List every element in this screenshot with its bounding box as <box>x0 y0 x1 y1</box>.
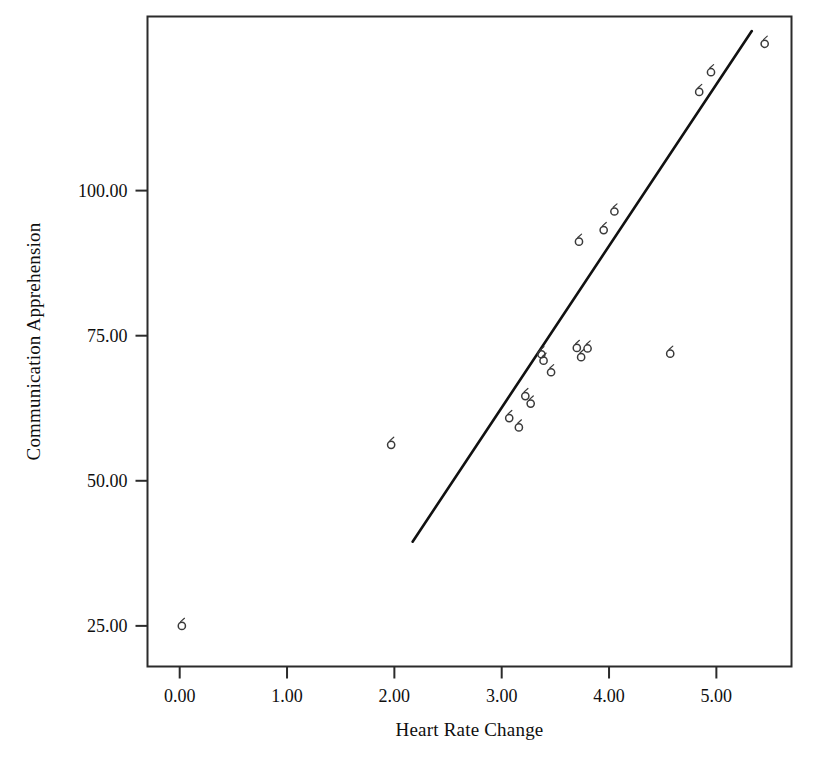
data-point-tick <box>698 84 702 87</box>
data-point-tick <box>669 346 673 349</box>
data-point-marker <box>388 441 395 448</box>
x-tick-label: 0.00 <box>164 686 196 707</box>
fit-line <box>413 31 752 542</box>
data-point-marker <box>707 69 714 76</box>
data-point-tick <box>576 340 580 343</box>
data-point <box>667 346 674 357</box>
data-point-tick <box>602 222 606 225</box>
y-tick-label: 100.00 <box>0 180 128 201</box>
x-axis-title: Heart Rate Change <box>148 719 792 741</box>
x-tick-label: 4.00 <box>593 686 625 707</box>
data-point-marker <box>547 369 554 376</box>
data-point-marker <box>696 88 703 95</box>
data-point-marker <box>600 226 607 233</box>
y-axis-title: Communication Apprehension <box>23 223 45 461</box>
data-point <box>584 341 591 352</box>
data-point-marker <box>578 354 585 361</box>
x-tick-label: 2.00 <box>379 686 411 707</box>
data-point-tick <box>518 420 522 423</box>
data-point <box>522 388 529 399</box>
data-point-tick <box>550 365 554 368</box>
data-point-marker <box>573 344 580 351</box>
data-point-marker <box>584 345 591 352</box>
x-tick-label: 5.00 <box>701 686 733 707</box>
data-point <box>506 411 513 422</box>
data-point-tick <box>578 234 582 237</box>
data-point-tick <box>508 411 512 414</box>
data-point-marker <box>667 350 674 357</box>
x-tick-label: 1.00 <box>271 686 303 707</box>
data-point-marker <box>527 400 534 407</box>
x-tick-label: 3.00 <box>486 686 518 707</box>
data-point <box>761 36 768 47</box>
data-point-marker <box>522 392 529 399</box>
data-point-marker <box>506 415 513 422</box>
data-point-marker <box>611 208 618 215</box>
data-point <box>178 618 185 629</box>
data-point-marker <box>575 238 582 245</box>
y-tick-label: 25.00 <box>0 615 128 636</box>
data-point <box>696 84 703 95</box>
data-point-tick <box>586 341 590 344</box>
data-point <box>573 340 580 351</box>
data-point <box>611 204 618 215</box>
plot-canvas <box>0 0 816 771</box>
data-point <box>540 353 547 364</box>
data-point-marker <box>178 622 185 629</box>
y-tick-label: 75.00 <box>0 325 128 346</box>
data-point <box>600 222 607 233</box>
data-point-tick <box>710 65 714 68</box>
data-point-tick <box>529 396 533 399</box>
data-point-tick <box>390 437 394 440</box>
data-point-tick <box>524 388 528 391</box>
data-point <box>547 365 554 376</box>
y-tick-label: 50.00 <box>0 470 128 491</box>
data-point-marker <box>515 424 522 431</box>
x-axis-ticks <box>180 667 717 679</box>
plot-frame <box>148 17 792 667</box>
data-point-marker <box>540 357 547 364</box>
data-point-tick <box>763 36 767 39</box>
scatter-plot-figure: 25.0050.0075.00100.00 0.001.002.003.004.… <box>0 0 816 771</box>
data-point <box>538 347 545 358</box>
data-point <box>707 65 714 76</box>
data-point-tick <box>613 204 617 207</box>
regression-line <box>413 31 752 542</box>
data-point-marker <box>761 40 768 47</box>
data-point <box>388 437 395 448</box>
data-point <box>515 420 522 431</box>
data-points <box>178 36 768 629</box>
plot-border <box>148 17 792 667</box>
data-point <box>575 234 582 245</box>
data-point-tick <box>181 618 185 621</box>
y-axis-ticks <box>136 191 148 626</box>
